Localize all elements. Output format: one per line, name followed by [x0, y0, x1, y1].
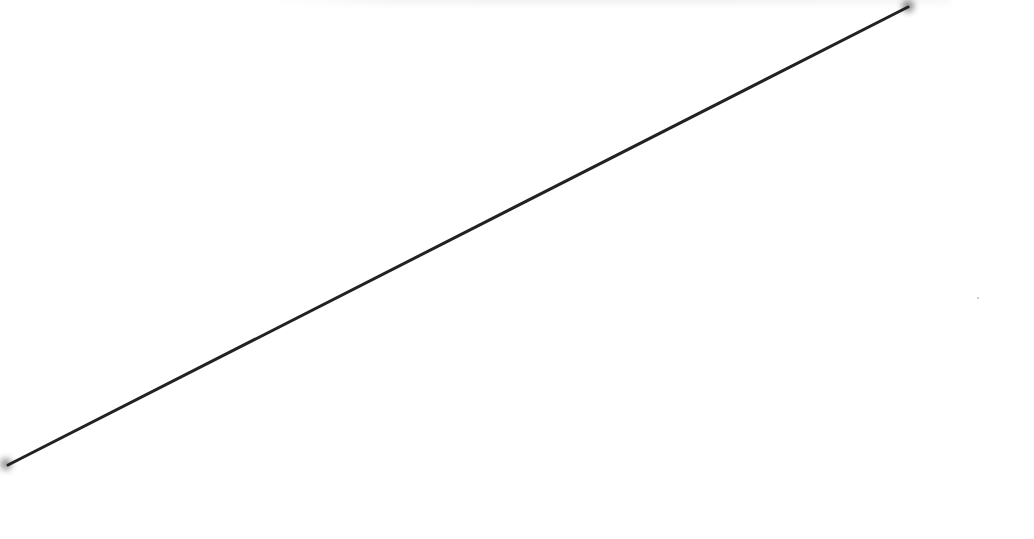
drawing-canvas — [0, 0, 1034, 539]
diagonal-line — [8, 7, 908, 465]
speck-mark — [977, 297, 979, 299]
